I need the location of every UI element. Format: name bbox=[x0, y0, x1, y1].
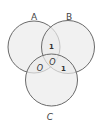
set-label-a: A bbox=[31, 12, 38, 22]
venn-diagram: A B C 1 O O 1 bbox=[0, 0, 101, 127]
set-label-b: B bbox=[66, 12, 72, 22]
region-b-and-c-only: 1 bbox=[61, 65, 66, 73]
region-a-and-b-only: 1 bbox=[49, 43, 54, 51]
region-a-b-c: O bbox=[49, 58, 55, 67]
region-a-and-c-only: O bbox=[37, 64, 43, 73]
set-label-c: C bbox=[47, 112, 54, 122]
